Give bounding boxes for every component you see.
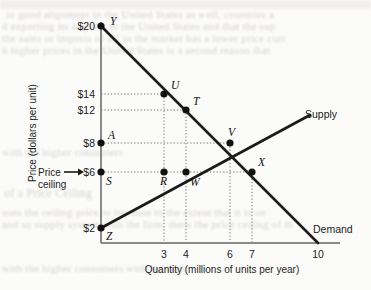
x-tick-label-4: 4 xyxy=(183,248,189,260)
point-Z[interactable] xyxy=(97,224,104,231)
point-label-V: V xyxy=(228,126,237,138)
supply-curve-label: Supply xyxy=(305,108,338,120)
point-T[interactable] xyxy=(182,106,189,113)
price-ceiling-label-line1: Price xyxy=(38,167,61,178)
point-X[interactable] xyxy=(248,168,255,175)
y-tick-label-20: $20 xyxy=(77,20,95,32)
x-tick-label-6: 6 xyxy=(227,248,233,260)
guide-lines xyxy=(101,94,252,243)
arrow-right-icon xyxy=(64,169,84,176)
point-label-Z: Z xyxy=(106,230,113,242)
point-W[interactable] xyxy=(182,168,189,175)
figure-container: in good alignment in the United States a… xyxy=(0,0,371,290)
x-tick-label-7: 7 xyxy=(249,248,255,260)
supply-demand-chart: Y U T A V S R W X Z $20 $14 $12 $8 $6 $2… xyxy=(0,0,371,290)
point-Y[interactable] xyxy=(97,22,104,29)
price-ceiling-label-line2: ceiling xyxy=(38,179,66,190)
demand-curve-label: Demand xyxy=(313,223,353,235)
x-tick-label-3: 3 xyxy=(161,248,167,260)
point-V[interactable] xyxy=(226,139,233,146)
point-A[interactable] xyxy=(97,139,104,146)
y-tick-label-6: $6 xyxy=(83,166,95,178)
y-tick-label-2: $2 xyxy=(83,222,95,234)
y-tick-label-14: $14 xyxy=(77,88,95,100)
y-axis-title: Price (dollars per unit) xyxy=(27,84,38,182)
point-label-R: R xyxy=(159,175,167,187)
point-label-S: S xyxy=(106,175,112,187)
point-label-Y: Y xyxy=(110,15,118,27)
point-U[interactable] xyxy=(160,90,167,97)
point-label-W: W xyxy=(190,176,201,188)
y-tick-label-8: $8 xyxy=(83,137,95,149)
point-label-A: A xyxy=(107,129,116,141)
x-tick-label-10: 10 xyxy=(312,248,324,260)
y-tick-label-12: $12 xyxy=(77,104,95,116)
point-label-U: U xyxy=(171,79,180,91)
point-label-T: T xyxy=(193,95,201,107)
point-S[interactable] xyxy=(97,168,104,175)
x-axis-title: Quantity (millions of units per year) xyxy=(145,264,300,275)
point-label-X: X xyxy=(257,156,266,168)
